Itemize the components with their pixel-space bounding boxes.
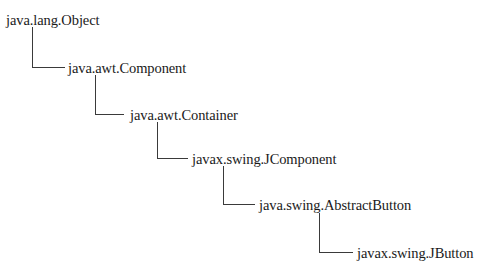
connector-horizontal-2 (157, 158, 188, 159)
connector-vertical-3 (223, 166, 224, 205)
connector-horizontal-0 (32, 67, 65, 68)
node-javax-swing-jcomponent: javax.swing.JComponent (192, 151, 336, 167)
node-javax-swing-jbutton: javax.swing.JButton (357, 245, 474, 261)
connector-vertical-1 (95, 75, 96, 115)
node-java-lang-object: java.lang.Object (6, 12, 99, 28)
connector-vertical-0 (32, 27, 33, 68)
connector-vertical-4 (319, 213, 320, 253)
node-java-awt-container: java.awt.Container (130, 107, 238, 123)
connector-vertical-2 (157, 122, 158, 159)
connector-horizontal-4 (319, 252, 353, 253)
node-java-swing-abstractbutton: java.swing.AbstractButton (259, 197, 411, 213)
connector-horizontal-3 (223, 204, 255, 205)
cropped-text-remnant (0, 0, 483, 3)
node-java-awt-component: java.awt.Component (68, 60, 186, 76)
connector-horizontal-1 (95, 114, 124, 115)
